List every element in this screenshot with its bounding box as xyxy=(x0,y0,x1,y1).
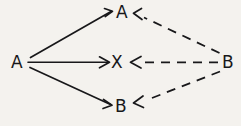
node-a-left: A xyxy=(11,54,23,71)
node-b-right: B xyxy=(222,54,234,71)
edge-a-left-to-x xyxy=(28,57,110,68)
edge-line xyxy=(144,18,220,54)
edge-line xyxy=(30,68,111,105)
edge-b-right-to-b-bottom xyxy=(134,72,221,108)
edge-b-right-to-x xyxy=(131,57,219,69)
arrowhead-icon xyxy=(131,57,142,69)
node-x-middle: X xyxy=(111,54,123,71)
edge-b-right-to-a-top xyxy=(134,9,220,54)
edge-a-left-to-a-top xyxy=(31,9,113,58)
arrowhead-icon xyxy=(134,96,144,108)
node-b-bottom: B xyxy=(115,98,127,115)
arrowhead-icon xyxy=(134,9,143,20)
node-a-top: A xyxy=(116,4,128,21)
diagram-canvas: A A X B B xyxy=(0,0,241,126)
edge-line xyxy=(31,12,112,58)
edge-line xyxy=(146,72,221,101)
edge-a-left-to-b-bottom xyxy=(30,68,112,109)
